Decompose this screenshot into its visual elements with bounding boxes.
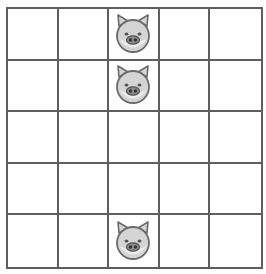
board-cell-r2-c1[interactable] <box>59 112 110 164</box>
board-cell-r4-c0[interactable] <box>8 215 59 267</box>
pig-icon <box>112 12 154 56</box>
board-cell-r3-c0[interactable] <box>8 164 59 216</box>
board-cell-r3-c1[interactable] <box>59 164 110 216</box>
board-cell-r2-c4[interactable] <box>210 112 261 164</box>
board-cell-r4-c3[interactable] <box>160 215 211 267</box>
board-cell-r0-c3[interactable] <box>160 9 211 61</box>
game-board <box>6 7 263 269</box>
board-cell-r3-c2[interactable] <box>109 164 160 216</box>
pig-icon <box>112 63 154 107</box>
board-cell-r2-c2[interactable] <box>109 112 160 164</box>
board-cell-r0-c1[interactable] <box>59 9 110 61</box>
board-cell-r3-c4[interactable] <box>210 164 261 216</box>
board-cell-r0-c2[interactable] <box>109 9 160 61</box>
pig-icon <box>112 219 154 263</box>
board-cell-r2-c0[interactable] <box>8 112 59 164</box>
board-cell-r4-c1[interactable] <box>59 215 110 267</box>
board-cell-r1-c4[interactable] <box>210 61 261 113</box>
board-cell-r1-c3[interactable] <box>160 61 211 113</box>
board-cell-r0-c0[interactable] <box>8 9 59 61</box>
board-cell-r3-c3[interactable] <box>160 164 211 216</box>
board-cell-r2-c3[interactable] <box>160 112 211 164</box>
board-cell-r4-c4[interactable] <box>210 215 261 267</box>
board-cell-r1-c0[interactable] <box>8 61 59 113</box>
board-cell-r1-c1[interactable] <box>59 61 110 113</box>
board-cell-r4-c2[interactable] <box>109 215 160 267</box>
board-cell-r1-c2[interactable] <box>109 61 160 113</box>
board-cell-r0-c4[interactable] <box>210 9 261 61</box>
